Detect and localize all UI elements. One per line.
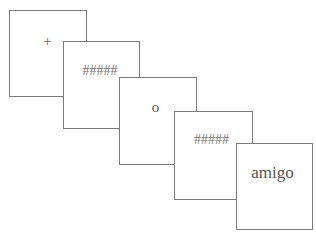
figure-title-cutoff bbox=[0, 0, 316, 3]
target-word-text: amigo bbox=[233, 163, 312, 183]
panel-target: amigo bbox=[236, 143, 313, 230]
